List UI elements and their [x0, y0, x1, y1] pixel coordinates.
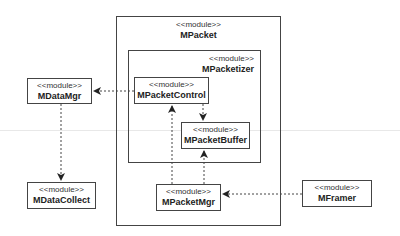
dependency-edges — [0, 0, 400, 236]
